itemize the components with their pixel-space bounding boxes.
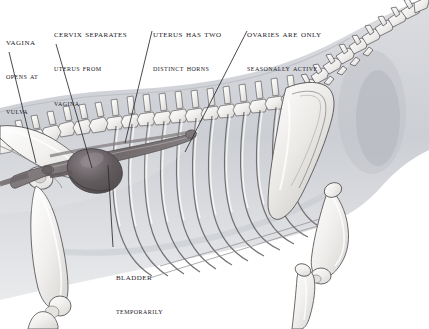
label-cervix-line-1: Cervix separates <box>54 28 127 40</box>
label-uterus-line-1: Uterus has two <box>153 28 222 40</box>
label-uterus-line-2: distinct horns <box>153 63 222 75</box>
label-uterus: Uterus has two distinct horns <box>153 5 222 98</box>
label-vagina-line-2: opens at <box>6 71 38 83</box>
label-ovaries: Ovaries are only seasonally active <box>247 5 322 98</box>
label-cervix-line-3: vagina <box>54 98 127 110</box>
radius-ulna-foreleg <box>292 262 315 329</box>
label-ovaries-line-1: Ovaries are only <box>247 28 322 40</box>
anatomy-illustration-page: Vagina opens at vulva Cervix separates u… <box>0 0 429 329</box>
label-vagina-line-3: vulva <box>6 106 38 118</box>
label-bladder: Bladder temporarily stores urine from ki… <box>116 248 167 329</box>
label-ovaries-line-2: seasonally active <box>247 63 322 75</box>
label-cervix: Cervix separates uterus from vagina <box>54 5 127 133</box>
label-vagina: Vagina opens at vulva <box>6 13 38 141</box>
label-vagina-line-1: Vagina <box>6 36 38 48</box>
label-bladder-line-2: temporarily <box>116 306 167 318</box>
label-bladder-line-1: Bladder <box>116 271 167 283</box>
label-cervix-line-2: uterus from <box>54 63 127 75</box>
